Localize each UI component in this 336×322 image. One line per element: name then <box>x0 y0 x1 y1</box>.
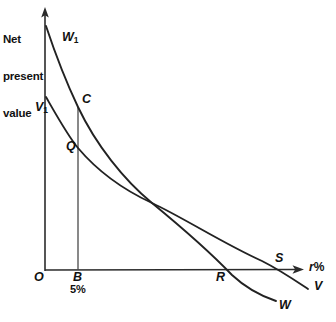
label-v1: V1 <box>21 88 48 128</box>
label-w-curve-end: W <box>279 299 291 312</box>
label-w1-subscript: 1 <box>74 35 79 45</box>
curve-v <box>46 97 308 289</box>
label-v1-subscript: 1 <box>43 105 48 115</box>
label-v1-letter: V <box>35 100 43 114</box>
label-r-point: R <box>216 271 225 284</box>
label-v-curve-end: V <box>314 280 322 293</box>
x-axis <box>45 270 296 271</box>
tick-value-5-percent: 5% <box>70 284 86 296</box>
label-w1-letter: W <box>62 30 74 44</box>
npv-irr-diagram: Net present value W1 V1 C Q O B 5% R S r… <box>0 0 336 322</box>
label-origin: O <box>34 271 44 284</box>
y-axis-title-line-1: Net <box>3 33 43 45</box>
label-w1: W1 <box>48 18 78 58</box>
x-axis-unit-label: r% <box>309 261 324 274</box>
x-axis-unit-percent: % <box>314 260 325 274</box>
label-q: Q <box>66 140 76 153</box>
curve-w <box>46 26 276 301</box>
label-c: C <box>82 93 91 106</box>
label-s-point: S <box>275 252 283 265</box>
y-axis-title-line-2: present <box>3 70 43 82</box>
